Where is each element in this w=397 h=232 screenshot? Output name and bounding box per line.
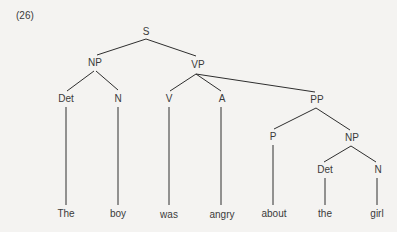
word-girl: girl xyxy=(370,209,383,219)
node-np-object: NP xyxy=(345,133,359,143)
node-pp: PP xyxy=(310,95,323,105)
tree-edges xyxy=(0,0,397,232)
node-np: NP xyxy=(88,58,102,68)
node-n-object: N xyxy=(374,165,381,175)
node-det-object: Det xyxy=(317,165,333,175)
word-angry: angry xyxy=(209,210,234,220)
node-det: Det xyxy=(58,94,74,104)
node-n: N xyxy=(114,94,121,104)
node-p: P xyxy=(270,132,277,142)
word-the-2: the xyxy=(318,209,332,219)
node-s: S xyxy=(143,27,150,37)
node-a: A xyxy=(219,94,226,104)
word-about: about xyxy=(261,209,286,219)
word-boy: boy xyxy=(110,209,126,219)
word-the: The xyxy=(57,209,74,219)
word-was: was xyxy=(160,210,178,220)
node-vp: VP xyxy=(191,60,204,70)
node-v: V xyxy=(166,94,173,104)
